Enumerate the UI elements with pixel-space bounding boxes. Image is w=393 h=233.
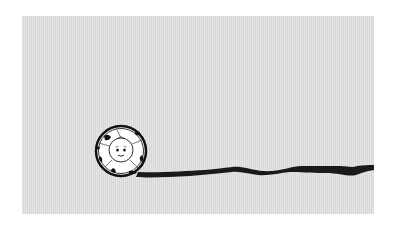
ink-trail bbox=[136, 165, 374, 177]
illustration-scene bbox=[0, 0, 393, 233]
ball bbox=[96, 126, 146, 176]
